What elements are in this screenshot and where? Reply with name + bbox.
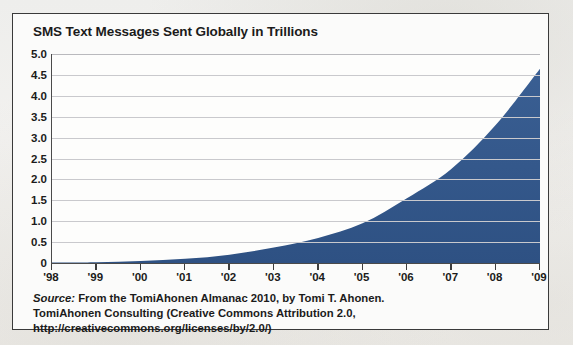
x-tick [317,264,318,270]
x-tick-label: '09 [531,272,547,284]
x-tick-label: '05 [354,272,370,284]
gridline [52,221,540,222]
y-tick-label: 0.5 [17,237,47,249]
y-tick-label: 3.0 [17,133,47,145]
page-title: SMS Text Messages Sent Globally in Trill… [33,24,318,39]
x-tick [539,264,540,270]
gridline [52,179,540,180]
x-tick [228,264,229,270]
source-line-1: From the TomiAhonen Almanac 2010, by Tom… [75,292,384,304]
x-tick-label: '06 [398,272,414,284]
y-tick-label: 2.0 [17,174,47,186]
gridline [52,75,540,76]
gridline [52,117,540,118]
gridline [52,242,540,243]
x-tick-label: '04 [309,272,325,284]
gridline [52,96,540,97]
x-axis-ticks [51,264,540,271]
x-tick-label: '02 [221,272,237,284]
chart-figure-panel: SMS Text Messages Sent Globally in Trill… [12,13,549,330]
x-axis-labels: '98'99'00'01'02'03'04'05'06'07'08'09 [51,272,540,286]
y-tick-label: 1.5 [17,195,47,207]
y-tick-label: 4.5 [17,70,47,82]
x-tick [273,264,274,270]
x-tick [184,264,185,270]
x-tick-label: '00 [132,272,148,284]
y-tick-label: 1.0 [17,216,47,228]
source-note: Source: From the TomiAhonen Almanac 2010… [33,291,503,337]
x-tick-label: '07 [443,272,459,284]
x-tick-label: '08 [487,272,503,284]
x-tick-label: '01 [176,272,192,284]
y-tick-label: 0 [17,258,47,270]
plot-area [51,54,540,264]
x-tick [51,264,52,270]
x-tick-label: '98 [43,272,59,284]
gridline [52,159,540,160]
x-tick-label: '03 [265,272,281,284]
x-tick [406,264,407,270]
source-label: Source: [33,292,75,304]
gridline [52,200,540,201]
area-fill-path [52,69,540,263]
x-tick [140,264,141,270]
y-tick-label: 5.0 [17,49,47,61]
y-tick-label: 4.0 [17,91,47,103]
gridline [52,138,540,139]
x-tick-label: '99 [88,272,104,284]
y-tick-label: 2.5 [17,154,47,166]
y-tick-label: 3.5 [17,112,47,124]
x-tick [95,264,96,270]
x-tick [495,264,496,270]
y-axis-labels: 5.04.54.03.53.02.52.01.51.00.50 [13,54,47,263]
source-line-3: http://creativecommons.org/licenses/by/2… [33,322,272,334]
x-tick [450,264,451,270]
source-line-2: TomiAhonen Consulting (Creative Commons … [33,307,356,319]
x-tick [362,264,363,270]
